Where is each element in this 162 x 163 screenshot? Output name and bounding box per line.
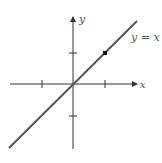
x-axis-label: x	[140, 79, 146, 90]
line-label: y = x	[130, 31, 160, 44]
y-axis-label: y	[78, 13, 86, 26]
point-1-1	[103, 51, 107, 55]
graph-canvas: y x y = x	[0, 0, 162, 163]
